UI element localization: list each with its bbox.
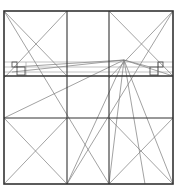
ray-line <box>67 60 124 184</box>
diagonal-line <box>67 11 173 184</box>
small-square <box>158 62 163 67</box>
ray-line <box>124 60 173 184</box>
diagonal-line <box>4 11 109 184</box>
construction-lines <box>4 11 173 184</box>
ray-line <box>124 60 173 76</box>
ray-line <box>109 60 124 184</box>
ray-line <box>124 60 150 67</box>
geometric-construction-diagram <box>0 0 176 189</box>
